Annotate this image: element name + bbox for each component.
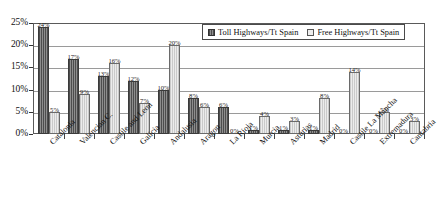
bar-value-label: 6%	[219, 101, 228, 108]
bar-value-label: 5%	[50, 106, 59, 113]
chart-legend: Toll Highways/Tt Spain Free Highways/Tt …	[202, 24, 405, 40]
y-axis-tick-mark	[29, 134, 33, 135]
bar-free: 16%	[109, 63, 120, 134]
bar-value-label: 12%	[127, 75, 139, 82]
bar-value-label: 8%	[189, 92, 198, 99]
bar-value-label: 9%	[80, 88, 89, 95]
bar-value-label: 14%	[348, 66, 360, 73]
bar-value-label: 16%	[108, 57, 120, 64]
y-axis-tick-label: 25%	[0, 18, 28, 28]
y-axis-tick-label: 15%	[0, 62, 28, 72]
bar-value-label: 24%	[37, 21, 49, 28]
y-axis-tick-label: 10%	[0, 85, 28, 95]
bar-value-label: 20%	[168, 39, 180, 46]
bar-chart: 0%5%10%15%20%25% 24%5%17%9%13%16%12%7%10…	[0, 0, 438, 211]
bar-value-label: 10%	[157, 84, 169, 91]
bar-group: 10%20%	[154, 23, 184, 134]
bar-group: 24%5%	[34, 23, 64, 134]
bar-free: 14%	[349, 72, 360, 134]
bar-toll: 24%	[38, 27, 49, 134]
y-axis-tick-label: 0%	[0, 129, 28, 139]
bar-value-label: 6%	[200, 101, 209, 108]
legend-label-free: Free Highways/Tt Spain	[317, 28, 399, 37]
bar-value-label: 4%	[260, 110, 269, 117]
legend-item-free: Free Highways/Tt Spain	[307, 28, 399, 37]
bar-free: 20%	[169, 45, 180, 134]
y-axis-tick-label: 20%	[0, 40, 28, 50]
legend-label-toll: Toll Highways/Tt Spain	[218, 28, 298, 37]
bar-value-label: 8%	[320, 92, 329, 99]
legend-swatch-free-icon	[307, 29, 314, 36]
legend-swatch-toll-icon	[208, 29, 215, 36]
y-axis-tick-label: 5%	[0, 107, 28, 117]
bar-group: 17%9%	[64, 23, 94, 134]
bar-value-label: 17%	[67, 53, 79, 60]
legend-item-toll: Toll Highways/Tt Spain	[208, 28, 298, 37]
bar-value-label: 3%	[290, 115, 299, 122]
bar-value-label: 13%	[97, 70, 109, 77]
